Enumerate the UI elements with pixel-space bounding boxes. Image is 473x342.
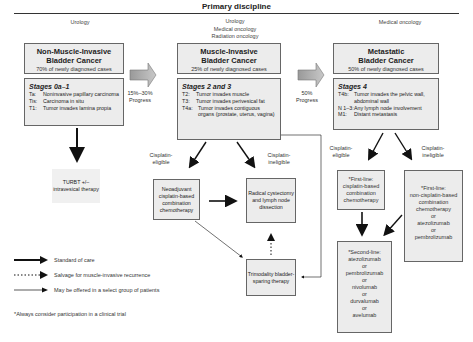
connector-arrows: [0, 0, 473, 342]
progress-arrow-icon: [130, 63, 324, 87]
